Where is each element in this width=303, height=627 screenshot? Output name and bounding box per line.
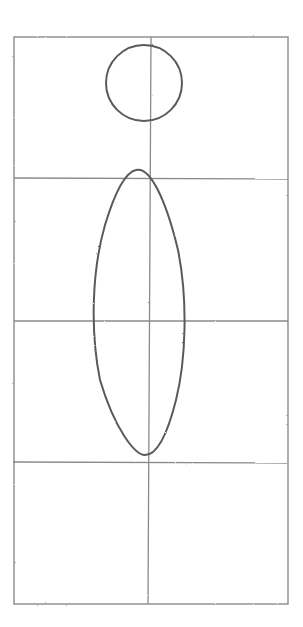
head-circle bbox=[106, 45, 182, 121]
body-ellipse bbox=[94, 170, 185, 455]
grid-line-horizontal bbox=[13, 462, 287, 463]
sketch-canvas bbox=[0, 0, 303, 627]
